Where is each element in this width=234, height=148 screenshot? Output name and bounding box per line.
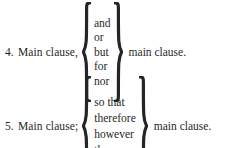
conjunctive-adverb-list: so that therefore however then [91,76,139,148]
rule-first-clause: Main clause, [18,46,78,58]
rule-lead-in: 4. Main clause, [5,46,78,58]
list-item: however [94,126,136,142]
brace-group: so that therefore however then [82,76,148,148]
list-item: therefore [94,110,136,126]
list-item: for [94,59,111,73]
list-item: then [94,142,136,148]
right-brace-icon [139,76,148,148]
rule-first-clause: Main clause; [18,120,78,132]
rule-second-clause: main clause. [129,46,186,58]
list-item: and [94,16,111,30]
grammar-rule-item: 5. Main clause; so that therefore howeve… [5,76,211,148]
list-item: so that [94,94,136,110]
list-item: or [94,30,111,44]
left-brace-icon [82,76,91,148]
rule-number: 5. [5,120,18,132]
document-page: 4. Main clause, and or but for nor [0,0,234,148]
rule-number: 4. [5,46,18,58]
list-item: but [94,45,111,59]
rule-lead-in: 5. Main clause; [5,120,78,132]
rule-second-clause: main clause. [154,120,211,132]
